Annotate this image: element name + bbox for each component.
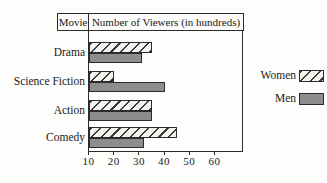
category-label-action: Action (0, 103, 85, 118)
x-tick-label-40: 40 (153, 155, 175, 167)
legend: WomenMen (240, 0, 327, 183)
category-label-drama: Drama (0, 45, 85, 60)
chart-header-table: Movie Number of Viewers (in hundreds) (57, 13, 244, 31)
header-cell-movie: Movie (58, 14, 89, 30)
bar-women-action (89, 100, 152, 111)
legend-label-women: Women (240, 69, 296, 82)
x-tick-label-60: 60 (204, 155, 226, 167)
bar-women-science-fiction (89, 71, 114, 82)
category-axis-labels: DramaScience FictionActionComedy (0, 30, 85, 151)
bar-chart-figure: Movie Number of Viewers (in hundreds) Dr… (0, 0, 327, 183)
x-tick-label-10: 10 (78, 155, 100, 167)
category-label-science-fiction: Science Fiction (0, 74, 85, 89)
plot-area (88, 30, 243, 152)
legend-label-men: Men (240, 92, 296, 105)
bar-men-action (89, 111, 152, 121)
bar-men-drama (89, 53, 142, 63)
bar-men-comedy (89, 138, 144, 148)
header-cell-number-of-viewers: Number of Viewers (in hundreds) (89, 14, 243, 30)
bar-men-science-fiction (89, 82, 165, 92)
legend-swatch-men (299, 93, 324, 105)
x-axis: 102030405060 (88, 151, 241, 171)
x-tick-label-20: 20 (103, 155, 125, 167)
x-tick-label-30: 30 (128, 155, 150, 167)
x-tick-label-50: 50 (178, 155, 200, 167)
category-label-comedy: Comedy (0, 130, 85, 145)
bar-women-drama (89, 42, 152, 53)
legend-swatch-women (299, 70, 324, 82)
bar-women-comedy (89, 127, 177, 138)
